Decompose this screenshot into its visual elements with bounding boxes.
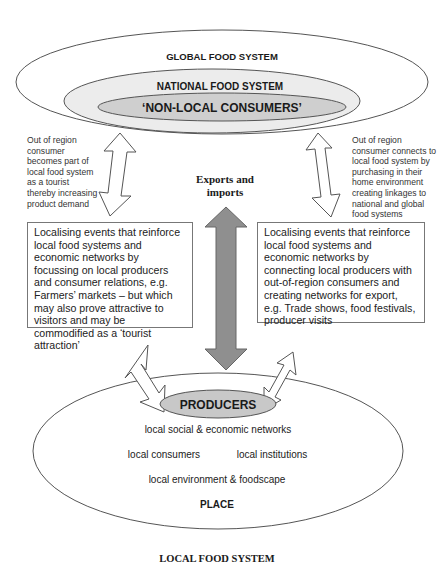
- exports-imports-label-line2: imports: [207, 186, 244, 198]
- producers-label: PRODUCERS: [180, 398, 257, 412]
- national-food-system-label: NATIONAL FOOD SYSTEM: [157, 81, 283, 92]
- exports-imports-label-line1: Exports and: [196, 173, 254, 185]
- local-institutions-label: local institutions: [237, 449, 308, 460]
- local-food-system-caption: LOCAL FOOD SYSTEM: [159, 553, 275, 564]
- non-local-consumers-label: ‘NON-LOCAL CONSUMERS’: [142, 101, 302, 115]
- local-consumers-label: local consumers: [128, 449, 200, 460]
- local-environment-label: local environment & foodscape: [149, 474, 286, 485]
- left-local-events-box: Localising events that reinforce local f…: [27, 222, 193, 328]
- local-networks-label: local social & economic networks: [145, 424, 292, 435]
- exports-imports-double-arrow-icon: [205, 207, 247, 370]
- right-local-events-box: Localising events that reinforce local f…: [257, 222, 425, 323]
- right-purchasing-note: Out of region consumer connects to local…: [352, 135, 445, 220]
- left-tourist-note: Out of region consumer becomes part of l…: [27, 135, 107, 209]
- global-food-system-label: GLOBAL FOOD SYSTEM: [166, 51, 278, 62]
- place-label: PLACE: [200, 499, 234, 510]
- purchasing-double-arrow-icon: [306, 133, 340, 217]
